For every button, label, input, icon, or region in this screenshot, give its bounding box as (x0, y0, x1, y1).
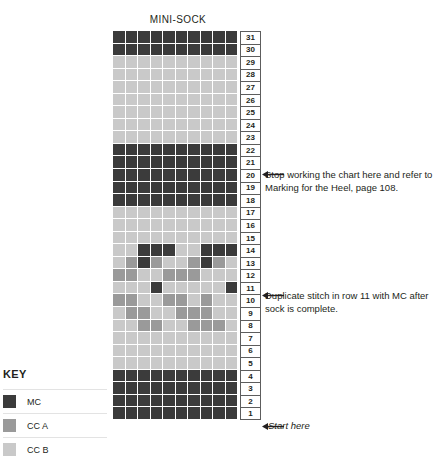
stitch-cell (151, 382, 164, 395)
legend-swatch-mc (3, 395, 16, 408)
stitch-cell (213, 106, 226, 119)
row-number-19: 19 (240, 182, 261, 195)
row-number-11: 11 (240, 282, 261, 295)
stitch-cell (188, 219, 201, 232)
stitch-cell (151, 81, 164, 94)
stitch-cell (226, 169, 239, 182)
row-number-10: 10 (240, 294, 261, 307)
stitch-cell (188, 81, 201, 94)
stitch-cell (113, 370, 126, 383)
stitch-cell (163, 332, 176, 345)
stitch-cell (163, 81, 176, 94)
stitch-cell (226, 119, 239, 132)
annotation-stop-working: Stop working the chart here and refer to… (265, 168, 435, 194)
stitch-cell (138, 357, 151, 370)
stitch-cell (163, 382, 176, 395)
chart-row (113, 244, 238, 257)
row-number-1: 1 (240, 407, 261, 420)
row-number-column: 3130292827262524232221201918171615141312… (240, 31, 261, 420)
stitch-cell (126, 357, 139, 370)
stitch-cell (126, 332, 139, 345)
stitch-cell (163, 407, 176, 420)
stitch-cell (138, 81, 151, 94)
stitch-cell (213, 232, 226, 245)
stitch-cell (201, 44, 214, 57)
stitch-cell (163, 294, 176, 307)
stitch-cell (113, 294, 126, 307)
stitch-cell (151, 219, 164, 232)
stitch-cell (213, 94, 226, 107)
stitch-cell (176, 382, 189, 395)
stitch-cell (163, 269, 176, 282)
stitch-cell (163, 357, 176, 370)
stitch-cell (163, 182, 176, 195)
stitch-cell (201, 207, 214, 220)
stitch-cell (213, 69, 226, 82)
stitch-cell (163, 370, 176, 383)
legend-items: MCCC ACC B (3, 389, 107, 461)
stitch-cell (226, 257, 239, 270)
chart-row (113, 194, 238, 207)
stitch-cell (226, 320, 239, 333)
stitch-cell (176, 169, 189, 182)
stitch-cell (126, 56, 139, 69)
stitch-cell (176, 269, 189, 282)
stitch-cell (151, 370, 164, 383)
stitch-cell (201, 395, 214, 408)
stitch-cell (151, 269, 164, 282)
row-number-4: 4 (240, 370, 261, 383)
chart-row (113, 119, 238, 132)
stitch-cell (163, 169, 176, 182)
stitch-cell (126, 219, 139, 232)
stitch-cell (126, 282, 139, 295)
stitch-cell (138, 407, 151, 420)
stitch-cell (138, 395, 151, 408)
stitch-cell (201, 282, 214, 295)
stitch-cell (113, 182, 126, 195)
stitch-cell (113, 106, 126, 119)
row-number-20: 20 (240, 169, 261, 182)
chart-row (113, 31, 238, 44)
stitch-cell (213, 31, 226, 44)
row-number-15: 15 (240, 232, 261, 245)
stitch-cell (138, 294, 151, 307)
stitch-cell (126, 207, 139, 220)
stitch-cell (113, 357, 126, 370)
stitch-cell (126, 382, 139, 395)
stitch-cell (188, 345, 201, 358)
stitch-cell (226, 345, 239, 358)
stitch-cell (138, 94, 151, 107)
stitch-cell (138, 219, 151, 232)
stitch-cell (213, 257, 226, 270)
stitch-cell (176, 395, 189, 408)
stitch-cell (151, 169, 164, 182)
stitch-cell (138, 106, 151, 119)
stitch-cell (151, 395, 164, 408)
stitch-cell (188, 269, 201, 282)
stitch-cell (201, 131, 214, 144)
legend-item-ccb: CC B (3, 437, 107, 461)
stitch-cell (113, 31, 126, 44)
stitch-cell (188, 156, 201, 169)
stitch-cell (138, 182, 151, 195)
stitch-cell (113, 332, 126, 345)
stitch-cell (151, 307, 164, 320)
row-number-6: 6 (240, 345, 261, 358)
stitch-cell (151, 282, 164, 295)
stitch-cell (138, 320, 151, 333)
stitch-cell (113, 156, 126, 169)
stitch-cell (226, 56, 239, 69)
stitch-cell (151, 131, 164, 144)
stitch-cell (176, 407, 189, 420)
chart-row (113, 370, 238, 383)
stitch-cell (126, 320, 139, 333)
stitch-cell (188, 332, 201, 345)
chart-row (113, 207, 238, 220)
stitch-cell (176, 131, 189, 144)
stitch-cell (163, 320, 176, 333)
stitch-cell (176, 332, 189, 345)
stitch-cell (138, 269, 151, 282)
stitch-cell (176, 320, 189, 333)
stitch-cell (113, 257, 126, 270)
stitch-cell (138, 257, 151, 270)
